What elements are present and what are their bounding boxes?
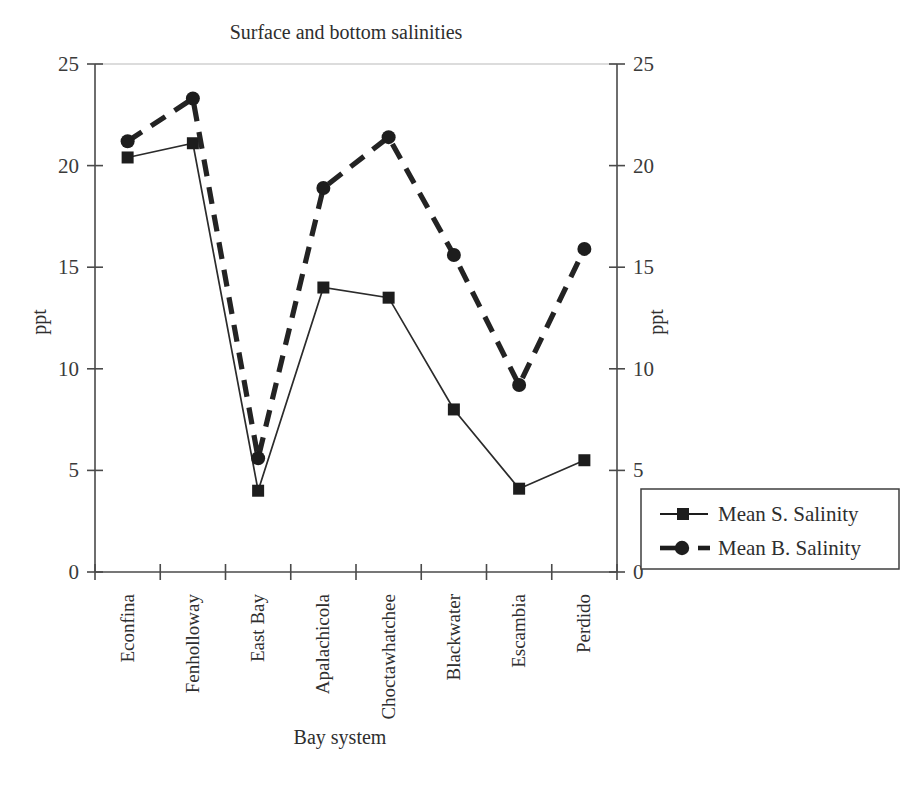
y-tick-label-left: 20 <box>58 154 79 178</box>
data-point-circle <box>121 134 135 148</box>
data-point-square <box>187 137 199 149</box>
y-tick-label-right: 25 <box>633 52 654 76</box>
series-layer <box>121 92 592 497</box>
y-axis-title-left: ppt <box>28 309 51 335</box>
x-axis-category-labels: EconfinaFenhollowayEast BayApalachicolaC… <box>117 593 595 719</box>
y-tick-label-left: 10 <box>58 357 79 381</box>
y-axis-title-right: ppt <box>645 309 668 335</box>
legend-label-mean-s-salinity: Mean S. Salinity <box>718 502 859 526</box>
data-point-circle <box>447 248 461 262</box>
chart-title: Surface and bottom salinities <box>230 21 463 43</box>
left-axis-ticks: 0510152025 <box>58 52 103 584</box>
x-tick-label: Fenholloway <box>182 594 203 694</box>
y-tick-label-right: 20 <box>633 154 654 178</box>
salinity-line-chart: Surface and bottom salinities 0510152025… <box>0 0 916 804</box>
data-point-square <box>578 454 590 466</box>
legend-marker-square <box>677 508 689 520</box>
data-point-circle <box>186 92 200 106</box>
y-tick-label-right: 5 <box>633 458 644 482</box>
data-point-circle <box>577 242 591 256</box>
data-point-circle <box>382 130 396 144</box>
data-point-circle <box>251 451 265 465</box>
x-tick-label: Econfina <box>117 593 138 662</box>
x-tick-label: Apalachicola <box>312 593 333 694</box>
legend-label-mean-b-salinity: Mean B. Salinity <box>718 536 861 560</box>
data-point-square <box>252 485 264 497</box>
x-tick-label: Escambia <box>508 593 529 667</box>
y-tick-label-right: 15 <box>633 255 654 279</box>
y-tick-label-left: 25 <box>58 52 79 76</box>
data-point-circle <box>316 181 330 195</box>
y-tick-label-left: 15 <box>58 255 79 279</box>
data-point-square <box>383 292 395 304</box>
x-tick-label: Blackwater <box>443 593 464 680</box>
y-tick-label-left: 0 <box>69 560 80 584</box>
legend-marker-circle <box>675 541 689 555</box>
x-tick-label: East Bay <box>247 594 268 663</box>
data-point-square <box>513 483 525 495</box>
data-point-square <box>448 403 460 415</box>
y-tick-label-right: 10 <box>633 357 654 381</box>
series-line <box>128 99 585 459</box>
x-tick-label: Choctawhatchee <box>378 594 399 720</box>
data-point-square <box>122 151 134 163</box>
y-tick-label-left: 5 <box>69 458 80 482</box>
x-axis-title: Bay system <box>294 726 387 749</box>
chart-legend: Mean S. Salinity Mean B. Salinity <box>641 489 899 569</box>
data-point-circle <box>512 378 526 392</box>
chart-figure: Surface and bottom salinities 0510152025… <box>0 0 916 804</box>
series-mean-s-salinity <box>122 137 591 496</box>
series-line <box>128 143 585 490</box>
data-point-square <box>317 282 329 294</box>
x-tick-label: Perdido <box>573 594 594 653</box>
